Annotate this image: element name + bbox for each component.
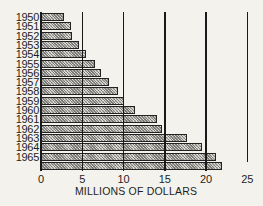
bar-1954 (41, 50, 86, 58)
bar-1964 (41, 143, 202, 151)
x-tick-5: 5 (70, 173, 94, 185)
y-label-1965: 1965 (0, 152, 39, 162)
x-tick-20: 20 (194, 173, 218, 185)
gridline-15 (164, 12, 166, 171)
x-tick-10: 10 (112, 173, 136, 185)
gridline-10 (123, 12, 125, 171)
bar-1955 (41, 60, 95, 68)
bar-1950 (41, 13, 64, 21)
bar-1956 (41, 69, 101, 77)
bar-1961 (41, 115, 157, 123)
y-axis-line (40, 12, 42, 171)
x-axis-title: MILLIONS OF DOLLARS (60, 185, 212, 197)
bar-1957 (41, 78, 109, 86)
bar-1960 (41, 106, 135, 114)
bar-1958 (41, 87, 118, 95)
bar-1962 (41, 125, 162, 133)
x-tick-0: 0 (29, 173, 53, 185)
bar-1953 (41, 41, 79, 49)
x-tick-15: 15 (153, 173, 177, 185)
horizontal-bar-chart: 1950195119521953195419551956195719581959… (0, 0, 263, 206)
gridline-5 (82, 12, 84, 171)
bar-unlabeled (41, 162, 222, 170)
gridline-20 (205, 12, 207, 171)
bar-1951 (41, 22, 71, 30)
gridline-25 (247, 12, 249, 162)
x-tick-25: 25 (235, 173, 259, 185)
bar-1952 (41, 32, 72, 40)
bar-1965 (41, 153, 216, 161)
